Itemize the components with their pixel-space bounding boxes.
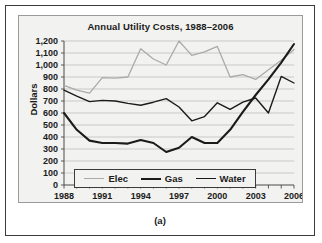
y-tick-label: 100 xyxy=(43,168,58,178)
y-tick-label: 800 xyxy=(43,84,58,94)
data-series-group xyxy=(64,41,294,152)
y-tick-label: 600 xyxy=(43,108,58,118)
x-tick-label: 1994 xyxy=(131,191,151,201)
y-tick-label: 200 xyxy=(43,156,58,166)
y-tick-label: 400 xyxy=(43,132,58,142)
figure-container: Annual Utility Costs, 1988–2006 Dollars … xyxy=(5,5,315,236)
y-tick-label: 1,100 xyxy=(35,48,58,58)
y-tick-label: 500 xyxy=(43,120,58,130)
x-tick-label: 1991 xyxy=(92,191,112,201)
legend-item-water: Water xyxy=(196,173,246,184)
legend-label-elec: Elec xyxy=(108,173,128,184)
chart-legend: Elec Gas Water xyxy=(74,169,256,188)
y-tick-label: 300 xyxy=(43,144,58,154)
legend-swatch-water xyxy=(196,178,216,179)
legend-swatch-gas xyxy=(141,178,161,180)
x-tick-label: 1988 xyxy=(54,191,74,201)
legend-label-gas: Gas xyxy=(165,173,183,184)
legend-item-elec: Elec xyxy=(84,173,128,184)
y-tick-group: 1,2001,1001,0009008007006005004003002001… xyxy=(35,36,64,190)
chart-panel: Annual Utility Costs, 1988–2006 Dollars … xyxy=(18,15,303,203)
series-line-elec xyxy=(64,41,294,93)
y-tick-label: 0 xyxy=(53,180,58,190)
x-tick-label: 2006 xyxy=(284,191,302,201)
figure-caption: (a) xyxy=(6,215,314,226)
series-line-gas xyxy=(64,44,294,152)
legend-swatch-elec xyxy=(84,178,104,179)
x-tick-label: 2000 xyxy=(207,191,227,201)
x-tick-label: 1997 xyxy=(169,191,189,201)
y-tick-label: 1,200 xyxy=(35,36,58,46)
x-tick-label: 2003 xyxy=(246,191,266,201)
legend-item-gas: Gas xyxy=(141,173,183,184)
y-tick-label: 900 xyxy=(43,72,58,82)
y-tick-label: 700 xyxy=(43,96,58,106)
y-tick-label: 1,000 xyxy=(35,60,58,70)
legend-label-water: Water xyxy=(220,173,246,184)
